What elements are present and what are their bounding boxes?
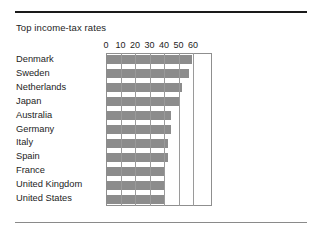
bar	[106, 69, 189, 78]
gridline	[179, 53, 180, 206]
category-axis-labels: DenmarkSwedenNetherlandsJapanAustraliaGe…	[16, 53, 102, 206]
bar	[106, 97, 179, 106]
bottom-rule-divider	[15, 222, 307, 223]
category-label: Netherlands	[16, 81, 66, 95]
x-axis-tick-labels: 0102030405060	[0, 40, 321, 52]
category-label: Australia	[16, 109, 52, 123]
bar	[106, 125, 171, 134]
bar	[106, 153, 168, 162]
category-label: Germany	[16, 123, 54, 137]
category-label: France	[16, 164, 45, 178]
x-tick-label: 60	[183, 40, 203, 50]
category-label: Spain	[16, 150, 40, 164]
gridline	[150, 53, 151, 206]
category-label: Italy	[16, 136, 33, 150]
category-label: Japan	[16, 95, 41, 109]
category-label: United States	[16, 192, 72, 206]
category-label: Sweden	[16, 67, 50, 81]
gridline	[135, 53, 136, 206]
category-label: Denmark	[16, 53, 54, 67]
top-rule-divider	[15, 11, 307, 13]
bar	[106, 139, 168, 148]
bar	[106, 83, 182, 92]
chart-title: Top income-tax rates	[16, 22, 106, 33]
bar	[106, 111, 171, 120]
gridline	[121, 53, 122, 206]
category-label: United Kingdom	[16, 178, 82, 192]
plot-area	[106, 53, 212, 206]
gridline	[164, 53, 165, 206]
bars-layer	[106, 53, 212, 206]
gridline	[193, 53, 194, 206]
chart-figure: Top income-tax rates 0102030405060 Denma…	[0, 0, 321, 231]
